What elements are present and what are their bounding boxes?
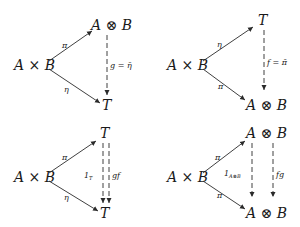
lower-arrow: [203, 69, 245, 100]
bottom-object: A ⊗ B: [244, 97, 287, 113]
upper-arrow-label: π: [61, 41, 68, 50]
top-object: T: [258, 12, 269, 28]
upper-arrow: [203, 27, 253, 61]
lower-arrow: [203, 181, 245, 209]
lower-arrow: [49, 69, 100, 103]
bottom-object: A ⊗ B: [244, 205, 287, 221]
diagram-bottom-right: A × B A ⊗ B A ⊗ B π π 1A⊗B fg: [165, 125, 287, 221]
composite-label: fg: [275, 170, 284, 179]
bottom-object: T: [100, 205, 111, 221]
lower-arrow-label: π: [217, 82, 224, 91]
identity-subscript: A⊗B: [228, 173, 241, 179]
upper-arrow-label: π: [61, 153, 68, 162]
top-object: A ⊗ B: [89, 17, 132, 33]
vertical-arrow-label: f = π̄: [266, 58, 288, 67]
source-object: A × B: [165, 57, 208, 73]
source-object: A × B: [12, 169, 55, 185]
commutative-diagrams: A × B A ⊗ B T π η g = η̄ A × B T A ⊗ B η…: [0, 0, 300, 227]
source-object: A × B: [165, 169, 208, 185]
lower-arrow-label: π: [216, 191, 223, 200]
lower-arrow-label: η: [64, 85, 69, 94]
upper-arrow: [49, 141, 96, 173]
source-object: A × B: [12, 57, 55, 73]
bottom-object: T: [102, 97, 113, 113]
identity-subscript: T: [89, 175, 93, 181]
diagram-bottom-left: A × B T T π η 1T gf: [12, 125, 122, 221]
identity-label: 1A⊗B: [224, 169, 241, 179]
lower-arrow: [49, 181, 98, 211]
top-object: T: [100, 125, 111, 141]
upper-arrow: [49, 31, 92, 61]
vertical-arrow-label: g = η̄: [110, 61, 132, 70]
diagram-top-left: A × B A ⊗ B T π η g = η̄: [12, 17, 132, 113]
identity-label: 1T: [84, 171, 93, 181]
lower-arrow-label: η: [64, 193, 69, 202]
composite-label: gf: [112, 171, 122, 180]
diagram-top-right: A × B T A ⊗ B η π f = π̄: [165, 12, 288, 113]
top-object: A ⊗ B: [244, 125, 287, 141]
upper-arrow-label: π: [214, 153, 221, 162]
upper-arrow-label: η: [217, 40, 222, 49]
